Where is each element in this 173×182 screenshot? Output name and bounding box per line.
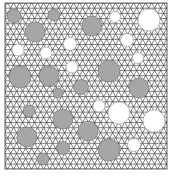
gray-inclusion: [74, 80, 89, 95]
white-inclusion: [121, 34, 134, 47]
gray-inclusion: [78, 121, 98, 141]
gray-inclusion: [37, 153, 49, 165]
gray-inclusion: [53, 109, 73, 129]
gray-inclusion: [98, 60, 120, 82]
gray-inclusion: [82, 16, 102, 36]
mesh-figure: [0, 0, 173, 182]
white-inclusion: [110, 12, 121, 23]
gray-inclusion: [23, 105, 35, 117]
white-inclusion: [64, 38, 77, 51]
gray-inclusion: [9, 66, 31, 88]
gray-inclusion: [53, 88, 63, 98]
gray-inclusion: [17, 127, 37, 147]
white-inclusion: [66, 61, 78, 73]
gray-inclusion: [129, 78, 149, 98]
gray-inclusion: [25, 22, 45, 42]
white-inclusion: [93, 100, 105, 112]
white-inclusion: [133, 53, 144, 64]
white-inclusion: [143, 110, 165, 132]
white-inclusion: [138, 9, 160, 31]
white-inclusion: [108, 102, 130, 124]
white-inclusion: [40, 47, 52, 59]
white-inclusion: [12, 44, 24, 56]
white-inclusion: [128, 139, 141, 152]
gray-inclusion: [39, 66, 59, 86]
gray-inclusion: [7, 9, 21, 23]
gray-inclusion: [57, 142, 70, 155]
gray-inclusion: [48, 9, 60, 21]
gray-inclusion: [98, 139, 120, 161]
mesh-diagram: [0, 0, 173, 182]
